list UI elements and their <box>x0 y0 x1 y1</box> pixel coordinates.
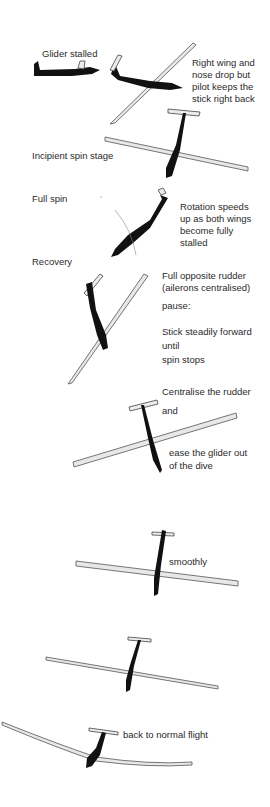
note-wing-drop-3: pilot keeps the <box>192 81 253 93</box>
note-rotation-4: stalled <box>180 237 207 249</box>
note-rotation-3: become fully <box>180 225 233 237</box>
note-centralise: Centralise the rudder <box>162 386 251 398</box>
glider-smoothly-icon <box>76 530 238 596</box>
glider-incipient-icon <box>105 109 248 178</box>
note-pause: pause: <box>162 300 191 312</box>
note-wing-drop-1: Right wing and <box>192 57 255 69</box>
note-smoothly: smoothly <box>169 556 207 568</box>
note-ease-1: ease the glider out <box>169 447 247 459</box>
note-and: and <box>162 405 178 417</box>
glider-recovery-icon <box>68 274 148 384</box>
spin-recovery-illustration <box>0 0 270 807</box>
note-normal-flight: back to normal flight <box>123 729 208 741</box>
note-stick-3: spin stops <box>162 354 205 366</box>
label-recovery: Recovery <box>32 256 72 268</box>
label-glider-stalled: Glider stalled <box>42 48 97 60</box>
glider-full-spin-icon <box>100 188 168 257</box>
label-full-spin: Full spin <box>32 193 67 205</box>
label-incipient-spin: Incipient spin stage <box>32 150 113 162</box>
note-rotation-1: Rotation speeds <box>180 201 249 213</box>
note-rudder-1: Full opposite rudder <box>162 270 246 282</box>
note-ease-2: of the dive <box>169 460 213 472</box>
note-rotation-2: up as both wings <box>180 213 251 225</box>
note-wing-drop-2: nose drop but <box>192 69 250 81</box>
note-wing-drop-4: stick right back <box>192 93 255 105</box>
note-rudder-2: (ailerons centralised) <box>162 282 250 294</box>
glider-side-view-icon <box>34 61 100 76</box>
note-stick-1: Stick steadily forward <box>162 326 252 338</box>
glider-levelling-icon <box>46 637 218 692</box>
note-stick-2: until <box>162 340 179 352</box>
